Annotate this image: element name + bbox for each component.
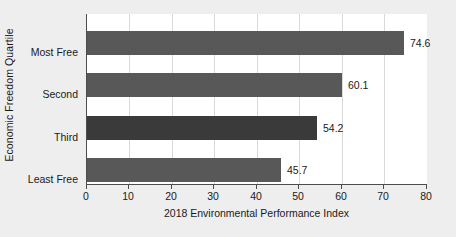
bar-most-free (87, 31, 404, 55)
x-axis-title: 2018 Environmental Performance Index (86, 207, 427, 219)
x-tick-mark-0 (86, 185, 87, 189)
y-tick-label-least-free: Least Free (28, 172, 78, 186)
x-tick-label-60: 60 (321, 190, 361, 202)
x-tick-mark-10 (128, 185, 129, 189)
bar-value-most-free: 74.6 (410, 31, 430, 55)
x-tick-label-20: 20 (151, 190, 191, 202)
y-tick-label-most-free: Most Free (31, 45, 78, 59)
x-tick-mark-30 (213, 185, 214, 189)
x-tick-mark-50 (298, 185, 299, 189)
bar-third (87, 116, 317, 140)
x-tick-label-0: 0 (66, 190, 106, 202)
bar-second (87, 73, 342, 97)
bar-value-third: 54.2 (323, 116, 343, 140)
x-tick-label-40: 40 (236, 190, 276, 202)
x-tick-mark-70 (383, 185, 384, 189)
plot-area: 74.6 60.1 54.2 45.7 (86, 14, 427, 185)
x-tick-mark-60 (341, 185, 342, 189)
x-tick-label-10: 10 (108, 190, 148, 202)
x-tick-mark-80 (426, 185, 427, 189)
y-axis-tick-labels: Most Free Second Third Least Free (18, 14, 82, 184)
x-tick-label-30: 30 (193, 190, 233, 202)
y-tick-label-second: Second (42, 87, 78, 101)
x-axis-tick-labels: 0 10 20 30 40 50 60 70 80 (0, 190, 456, 204)
x-tick-label-80: 80 (406, 190, 446, 202)
x-tick-label-70: 70 (363, 190, 403, 202)
bar-value-least-free: 45.7 (287, 158, 307, 182)
x-tick-label-50: 50 (278, 190, 318, 202)
y-tick-label-third: Third (54, 130, 78, 144)
y-axis-title-text: Economic Freedom Quartile (3, 28, 15, 161)
x-tick-mark-20 (171, 185, 172, 189)
bar-least-free (87, 158, 281, 182)
bar-value-second: 60.1 (348, 73, 368, 97)
bar-chart: Economic Freedom Quartile Most Free Seco… (0, 0, 456, 237)
y-axis-title: Economic Freedom Quartile (0, 0, 18, 190)
x-tick-mark-40 (256, 185, 257, 189)
